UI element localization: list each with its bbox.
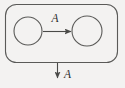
outer-rounded-box: [6, 5, 118, 63]
transition-label-horizontal: A: [50, 12, 59, 24]
diagram-canvas: A A: [0, 0, 125, 88]
transition-label-outgoing: A: [63, 68, 72, 80]
diagram-svg: A A: [0, 0, 125, 88]
